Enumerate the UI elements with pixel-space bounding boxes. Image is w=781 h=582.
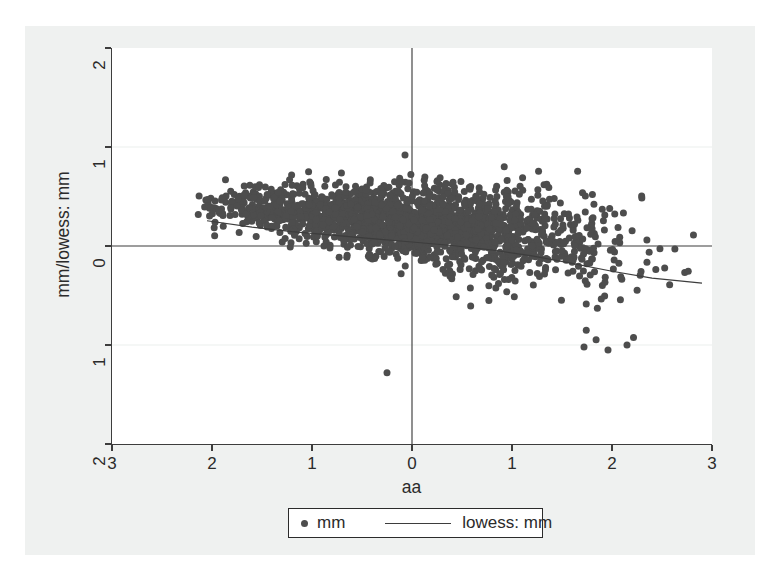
- scatter-point: [397, 178, 404, 185]
- scatter-point: [498, 236, 505, 243]
- scatter-point: [552, 266, 559, 273]
- scatter-point: [512, 211, 519, 218]
- scatter-point: [571, 248, 578, 255]
- scatter-point: [353, 223, 360, 230]
- scatter-point: [467, 285, 474, 292]
- scatter-point: [336, 254, 343, 261]
- scatter-point-outlier: [384, 369, 391, 376]
- scatter-point: [463, 240, 470, 247]
- scatter-point: [634, 287, 641, 294]
- scatter-point: [423, 238, 430, 245]
- scatter-point: [475, 226, 482, 233]
- scatter-point: [323, 176, 330, 183]
- scatter-point: [590, 201, 597, 208]
- scatter-point: [611, 257, 618, 264]
- scatter-point: [488, 272, 495, 279]
- scatter-point: [266, 203, 273, 210]
- scatter-point: [457, 218, 464, 225]
- scatter-point: [491, 208, 498, 215]
- scatter-point: [472, 249, 479, 256]
- scatter-point: [458, 251, 465, 258]
- scatter-point: [519, 174, 526, 181]
- scatter-point: [376, 231, 383, 238]
- scatter-point: [212, 197, 219, 204]
- scatter-point: [643, 237, 650, 244]
- scatter-point: [275, 189, 282, 196]
- scatter-point: [366, 251, 373, 258]
- scatter-point: [574, 168, 581, 175]
- scatter-point: [565, 270, 572, 277]
- scatter-point: [241, 182, 248, 189]
- scatter-point: [411, 225, 418, 232]
- scatter-point: [557, 199, 564, 206]
- scatter-point: [582, 208, 589, 215]
- scatter-point: [583, 224, 590, 231]
- scatter-point: [430, 227, 437, 234]
- scatter-point: [480, 191, 487, 198]
- scatter-point: [611, 211, 618, 218]
- scatter-point: [495, 280, 502, 287]
- scatter-point: [207, 204, 214, 211]
- scatter-point: [511, 217, 518, 224]
- scatter-point: [576, 273, 583, 280]
- scatter-point: [400, 216, 407, 223]
- scatter-point: [469, 217, 476, 224]
- scatter-point: [661, 265, 668, 272]
- scatter-point: [319, 221, 326, 228]
- scatter-point: [407, 171, 414, 178]
- scatter-point: [582, 277, 589, 284]
- scatter-point: [363, 187, 370, 194]
- scatter-point: [602, 274, 609, 281]
- x-tick-label: 3: [94, 453, 130, 475]
- scatter-point: [652, 266, 659, 273]
- scatter-point: [256, 219, 263, 226]
- scatter-point: [196, 192, 203, 199]
- scatter-point: [690, 231, 697, 238]
- scatter-point: [206, 212, 213, 219]
- scatter-point: [204, 196, 211, 203]
- scatter-point: [432, 261, 439, 268]
- x-tick-mark: [111, 445, 112, 451]
- scatter-point: [497, 270, 504, 277]
- scatter-point: [412, 235, 419, 242]
- scatter-point: [306, 178, 313, 185]
- scatter-point: [656, 245, 663, 252]
- scatter-point: [336, 216, 343, 223]
- scatter-point: [420, 190, 427, 197]
- scatter-point: [222, 176, 229, 183]
- scatter-point: [448, 275, 455, 282]
- scatter-point-outlier: [605, 346, 612, 353]
- scatter-point: [526, 269, 533, 276]
- scatter-point: [484, 205, 491, 212]
- scatter-point: [386, 219, 393, 226]
- scatter-point-outlier: [624, 342, 631, 349]
- scatter-point: [269, 214, 276, 221]
- scatter-point: [591, 268, 598, 275]
- legend-label-mm: mm: [317, 513, 345, 533]
- scatter-point: [303, 240, 310, 247]
- scatter-point: [553, 239, 560, 246]
- scatter-point: [262, 183, 269, 190]
- scatter-point: [439, 266, 446, 273]
- legend-marker-dot-icon: [301, 520, 308, 527]
- scatter-points: [195, 151, 697, 376]
- scatter-point: [546, 196, 553, 203]
- scatter-point: [606, 205, 613, 212]
- scatter-point: [312, 209, 319, 216]
- scatter-point: [579, 189, 586, 196]
- scatter-point: [441, 182, 448, 189]
- scatter-point: [446, 247, 453, 254]
- plot-svg: [112, 48, 712, 444]
- scatter-point: [467, 183, 474, 190]
- scatter-point: [352, 183, 359, 190]
- scatter-point: [457, 178, 464, 185]
- scatter-point: [485, 297, 492, 304]
- scatter-point: [255, 184, 262, 191]
- scatter-point: [559, 247, 566, 254]
- scatter-point: [211, 232, 218, 239]
- scatter-point: [288, 208, 295, 215]
- scatter-point: [410, 217, 417, 224]
- scatter-point: [451, 215, 458, 222]
- scatter-point: [219, 194, 226, 201]
- scatter-point: [615, 238, 622, 245]
